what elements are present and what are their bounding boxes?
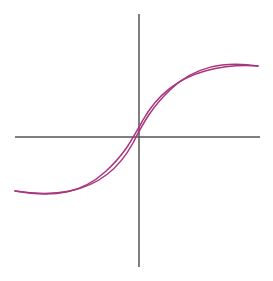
- axes-group: [15, 14, 260, 267]
- hysteresis-loop-group: [15, 64, 258, 194]
- hysteresis-descending-branch: [15, 64, 258, 193]
- hysteresis-chart-canvas: [0, 0, 273, 281]
- hysteresis-ascending-branch: [15, 66, 258, 194]
- hysteresis-figure: [0, 0, 273, 281]
